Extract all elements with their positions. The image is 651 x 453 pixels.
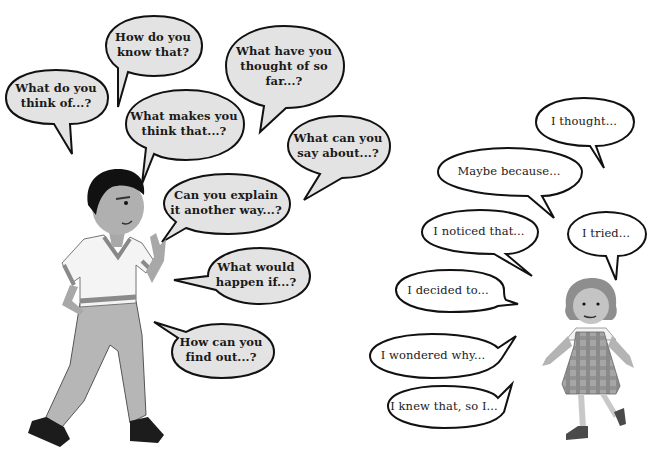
response-bubble-tried: I tried... [566,210,646,256]
question-bubble-what-makes: What makes youthink that...? [124,88,244,160]
question-bubble-think-of: What do youthink of...? [4,68,108,124]
question-text: What makes youthink that...? [130,109,238,139]
girl-shoe-left [566,426,588,440]
response-bubble-maybe: Maybe because... [436,146,582,196]
boy-pants [46,301,146,427]
boy-shoe-right [130,417,164,443]
girl-character [536,276,636,446]
question-text: What have youthought of sofar...? [236,44,332,89]
response-bubble-decided: I decided to... [394,268,516,312]
question-bubble-say-about: What can yousay about...? [286,114,390,178]
response-text: I knew that, so I... [390,399,498,414]
question-text: How can youfind out...? [179,335,262,365]
question-text: What wouldhappen if...? [216,260,297,290]
girl-face [573,288,609,324]
question-text: Can you explainit another way...? [170,188,281,218]
response-text: I wondered why... [381,348,486,363]
response-text: I tried... [582,226,630,241]
question-text: How do youknow that? [115,30,191,60]
speech-bubble-shape [566,210,646,282]
boy-character [18,165,178,453]
response-text: I thought... [551,114,617,129]
question-bubble-what-would-happen: What wouldhappen if...? [202,246,310,304]
question-bubble-find-out: How can youfind out...? [168,322,274,378]
girl-arm-left [542,336,572,366]
response-bubble-thought: I thought... [534,96,634,146]
response-bubble-wondered: I wondered why... [368,332,516,378]
question-bubble-how-know: How do youknow that? [104,14,202,76]
response-text: I noticed that... [433,224,524,239]
response-bubble-noticed: I noticed that... [420,208,538,254]
question-text: What can yousay about...? [294,131,383,161]
response-text: Maybe because... [457,164,560,179]
illustration: What do youthink of...? How do youknow t… [0,0,651,453]
response-bubble-knew: I knew that, so I... [386,384,512,428]
question-bubble-explain: Can you explainit another way...? [162,172,290,234]
question-text: What do youthink of...? [15,81,97,111]
response-text: I decided to... [407,283,488,298]
